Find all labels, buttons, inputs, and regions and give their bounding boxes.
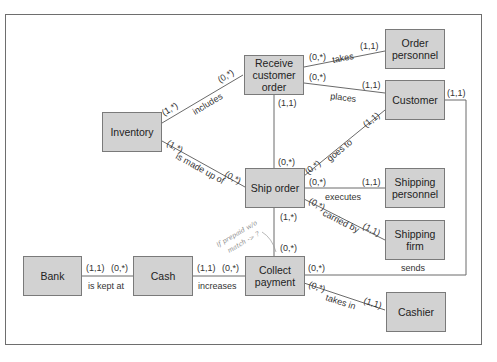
card-cust-sends: (1,1)	[447, 88, 466, 98]
entity-inventory[interactable]: Inventory	[102, 112, 162, 152]
card-rco-ship: (1,1)	[278, 98, 297, 108]
entity-order-personnel[interactable]: Orderpersonnel	[385, 29, 445, 69]
entity-label: Ship order	[251, 182, 299, 194]
entity-cashier[interactable]: Cashier	[386, 292, 446, 332]
entity-label: Receivecustomerorder	[252, 57, 295, 93]
entity-ship-order[interactable]: Ship order	[245, 168, 305, 208]
entity-label: Inventory	[110, 126, 153, 138]
entity-cash[interactable]: Cash	[133, 256, 193, 296]
entity-label: Collectpayment	[255, 264, 295, 288]
card-rco-includes: (0,*)	[216, 67, 236, 84]
entity-collect-payment[interactable]: Collectpayment	[245, 256, 305, 296]
rel-sends: sends	[401, 263, 426, 273]
rel-includes: includes	[191, 91, 225, 117]
card-inv-includes: (1,*)	[160, 100, 180, 117]
entity-receive-customer-order[interactable]: Receivecustomerorder	[244, 55, 304, 95]
card-rco-takes: (0,*)	[309, 52, 326, 62]
card-cp-takesin: (0,*)	[307, 279, 326, 294]
card-cp-ship: (0,*)	[280, 243, 297, 253]
card-op-takes: (1,1)	[360, 41, 379, 51]
entity-label: Customer	[392, 94, 438, 106]
entity-shipping-firm[interactable]: Shippingfirm	[385, 220, 445, 260]
entity-label: Bank	[41, 270, 65, 282]
rel-increases: increases	[198, 281, 237, 291]
card-cust-places: (1,1)	[362, 80, 381, 90]
card-cp-sends: (0,*)	[308, 263, 325, 273]
card-cash-kept: (0,*)	[111, 263, 128, 273]
entity-shipping-personnel[interactable]: Shippingpersonnel	[385, 168, 445, 208]
card-sp-executes: (1,1)	[362, 177, 381, 187]
rel-carried-by: carried by	[321, 208, 361, 235]
card-ship-cp: (1,*)	[280, 212, 297, 222]
rel-executes: executes	[325, 192, 362, 202]
card-rco-places: (0,*)	[309, 72, 326, 82]
card-ship-made: (0,*)	[223, 169, 243, 186]
rel-places: places	[330, 91, 358, 104]
entity-label: Cash	[151, 270, 176, 282]
entity-customer[interactable]: Customer	[385, 80, 445, 120]
card-cash-increases: (1,1)	[197, 263, 216, 273]
entity-label: Shippingfirm	[395, 228, 436, 252]
card-ship-rco: (0,*)	[278, 157, 295, 167]
rel-goes-to: goes to	[325, 137, 354, 163]
entity-label: Shippingpersonnel	[392, 176, 438, 200]
card-cp-increases: (0,*)	[222, 263, 239, 273]
card-ship-executes: (0,*)	[309, 177, 326, 187]
card-sf-carried: (1,1)	[361, 221, 382, 238]
rel-is-made-up-of: is made up of	[174, 151, 227, 186]
er-diagram: includes is made up of takes places goes…	[0, 0, 497, 362]
card-cashier-takesin: (1,1)	[362, 295, 383, 310]
card-bank-kept: (1,1)	[86, 263, 105, 273]
card-ship-goes: (0,*)	[303, 158, 323, 176]
entity-bank[interactable]: Bank	[23, 256, 82, 296]
rel-is-kept-at: is kept at	[88, 281, 125, 291]
entity-label: Cashier	[398, 306, 434, 318]
rel-takes: takes	[331, 51, 355, 65]
card-cust-goes: (1,1)	[361, 110, 382, 129]
entity-label: Orderpersonnel	[392, 37, 438, 61]
